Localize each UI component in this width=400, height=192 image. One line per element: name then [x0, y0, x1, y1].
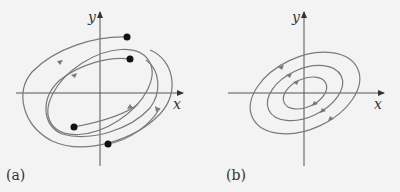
- x-axis-label: x: [374, 96, 382, 112]
- initial-point: [105, 141, 112, 148]
- y-axis-label: y: [87, 9, 97, 25]
- direction-arrow: [57, 60, 63, 65]
- inner-spiral: [46, 58, 158, 136]
- panel-caption: (b): [226, 167, 246, 183]
- panel-b: y x (b): [226, 9, 384, 183]
- direction-arrow: [293, 80, 299, 85]
- panel-a: y x (a): [6, 9, 183, 183]
- y-axis-label: y: [291, 9, 301, 25]
- phase-portrait-figure: y x (a) y x (b): [0, 0, 400, 192]
- direction-arrow: [71, 73, 77, 78]
- outer-spiral-2: [108, 108, 160, 144]
- initial-point: [124, 34, 131, 41]
- x-axis-label: x: [173, 96, 181, 112]
- initial-point: [127, 56, 134, 63]
- panel-caption: (a): [6, 167, 25, 183]
- initial-point: [71, 124, 78, 131]
